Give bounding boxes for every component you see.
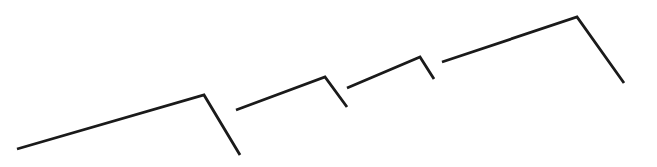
figure-canvas (0, 0, 657, 167)
sawtooth-polyline-figure (0, 0, 657, 167)
